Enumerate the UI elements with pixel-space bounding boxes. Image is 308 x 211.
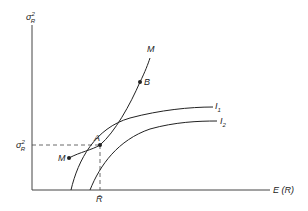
x-axis-label: E (R) (273, 186, 294, 195)
point-A-label: A (94, 134, 100, 143)
curve-I2-label: I2 (220, 117, 226, 128)
y-tick-label: σ2R (16, 139, 25, 152)
y-axis-label: σ2R (26, 11, 35, 24)
curve-I1-label: I1 (215, 102, 221, 113)
point-M-marker (67, 156, 71, 160)
point-A-marker (98, 143, 102, 147)
point-B-label: B (144, 78, 150, 87)
diagram-canvas (0, 0, 308, 211)
curve-M (69, 58, 150, 158)
x-tick-label: R̄ (96, 195, 103, 204)
curve-M-top-label: M (147, 45, 155, 54)
point-B-marker (138, 80, 142, 84)
curve-I2 (90, 121, 217, 190)
curve-M-bottom-label: M (58, 154, 66, 163)
